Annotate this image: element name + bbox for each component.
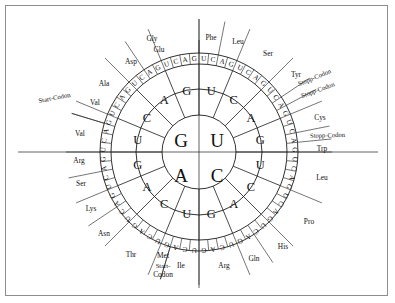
- leader-10-pro: [290, 190, 321, 203]
- aa-label-gly: Gly: [146, 34, 157, 43]
- third-base-a-30: A: [209, 245, 216, 254]
- third-base-u-40: U: [123, 214, 133, 224]
- aa-label-thr: Thr: [126, 250, 137, 259]
- aa-label-val2: Val: [90, 98, 100, 107]
- leader-24-start-codon: [72, 113, 105, 123]
- third-base-c-61: C: [172, 57, 179, 66]
- third-base-u-60: U: [163, 59, 171, 69]
- third-base-c-41: C: [117, 207, 126, 216]
- third-base-g-31: G: [201, 246, 207, 254]
- third-base-u-28: U: [227, 240, 235, 250]
- aa-label-his: His: [278, 242, 288, 251]
- aa-label-leu2: Leu: [316, 173, 328, 182]
- third-base-u-16: U: [290, 156, 298, 162]
- first-base-c-3: C: [211, 165, 224, 186]
- second-base-a-14: A: [160, 93, 169, 107]
- third-base-g-55: G: [123, 86, 132, 95]
- aa-label-arg1: Arg: [218, 261, 230, 270]
- ring3-divider-34: [180, 238, 182, 249]
- ring3-divider-63: [189, 53, 190, 64]
- leader-21-arg: [69, 171, 102, 178]
- aa-label-ser1: Ser: [263, 49, 273, 58]
- second-base-g-15: G: [182, 84, 191, 98]
- third-base-a-58: A: [146, 67, 155, 77]
- aa-label-arg2: Arg: [73, 156, 85, 165]
- second-base-u-12: U: [133, 133, 142, 147]
- ring3-divider-33: [189, 240, 190, 251]
- third-base-g-59: G: [154, 63, 162, 72]
- aa-label-tyr: Tyr: [291, 70, 302, 79]
- second-base-a-10: A: [143, 180, 152, 194]
- third-base-c-49: C: [100, 137, 109, 143]
- second-base-g-7: G: [207, 207, 216, 221]
- third-base-c-17: C: [289, 166, 298, 172]
- second-base-u-8: U: [182, 207, 191, 221]
- aa-label-vstart: Start-Codon: [38, 91, 72, 104]
- third-base-g-19: G: [284, 183, 293, 191]
- first-base-g-0: G: [174, 130, 188, 151]
- aa-label-pro: Pro: [304, 217, 315, 226]
- third-base-a-14: A: [289, 137, 298, 144]
- ring3-divider-35: [170, 236, 173, 247]
- aa-label-glu: Glu: [153, 45, 164, 54]
- second-base-a-2: A: [246, 111, 255, 125]
- leader-20-ser: [76, 190, 107, 203]
- third-base-g-15: G: [290, 147, 298, 153]
- third-base-g-23: G: [265, 214, 274, 223]
- second-base-u-0: U: [207, 84, 216, 98]
- aa-label-asn: Asn: [98, 229, 110, 238]
- leader-1-leu: [218, 22, 225, 55]
- ring3-divider-1: [208, 53, 209, 64]
- third-base-c-29: C: [219, 243, 226, 252]
- third-base-c-1: C: [210, 56, 216, 65]
- third-base-g-39: G: [130, 221, 139, 230]
- third-base-u-0: U: [201, 55, 207, 63]
- second-base-c-1: C: [230, 93, 238, 107]
- aa-label-ser2: Ser: [76, 179, 86, 188]
- third-base-g-35: G: [163, 240, 171, 249]
- aa-label-trp: Trp: [317, 144, 328, 153]
- third-base-g-7: G: [259, 79, 268, 88]
- third-base-a-62: A: [182, 55, 189, 64]
- aa-label-ile: Ile: [177, 261, 186, 270]
- leader-8-trp: [298, 139, 332, 142]
- second-base-u-4: U: [256, 158, 265, 172]
- aa-label-lys: Lys: [86, 204, 97, 213]
- aa-label-phe: Phe: [205, 33, 217, 42]
- aa-label-stop3: Stopp-Codon: [310, 131, 346, 139]
- third-base-a-18: A: [287, 174, 296, 182]
- third-base-g-51: G: [104, 118, 113, 126]
- ring3-divider-30: [216, 238, 218, 249]
- third-base-a-42: A: [112, 199, 122, 208]
- third-base-u-48: U: [99, 146, 107, 152]
- second-base-c-9: C: [160, 197, 168, 211]
- aa-label-cys: Cys: [314, 113, 326, 122]
- aa-label-gln: Gln: [248, 254, 259, 263]
- second-base-g-3: G: [256, 133, 265, 147]
- aa-label-leu1: Leu: [232, 37, 244, 46]
- ring3-divider-31: [208, 240, 209, 251]
- second-base-c-5: C: [247, 180, 255, 194]
- third-base-a-10: A: [276, 101, 286, 110]
- third-base-c-5: C: [244, 68, 252, 77]
- figure-frame: GUAC UCAGUCAGUCAGUCAG UCAGUCAGUCAGUCAGUC…: [0, 0, 395, 303]
- second-base-c-13: C: [143, 111, 151, 125]
- aa-label-mstart: Start-: [156, 262, 171, 269]
- first-base-a-2: A: [174, 165, 188, 186]
- aa-label-ala: Ala: [99, 79, 110, 88]
- third-base-g-47: G: [99, 156, 107, 162]
- second-base-g-11: G: [133, 158, 142, 172]
- aa-label-met: Met: [157, 251, 170, 260]
- second-base-a-6: A: [229, 197, 238, 211]
- third-base-c-57: C: [138, 73, 147, 82]
- third-base-g-63: G: [192, 55, 198, 63]
- third-base-c-53: C: [112, 101, 121, 109]
- third-base-u-4: U: [236, 63, 245, 73]
- third-base-u-56: U: [130, 78, 140, 88]
- third-base-a-50: A: [102, 127, 111, 135]
- third-base-g-11: G: [281, 110, 290, 118]
- aa-label-asp: Asp: [125, 57, 137, 66]
- third-base-u-52: U: [108, 109, 118, 118]
- first-base-u-1: U: [210, 130, 224, 151]
- third-base-c-33: C: [182, 245, 188, 254]
